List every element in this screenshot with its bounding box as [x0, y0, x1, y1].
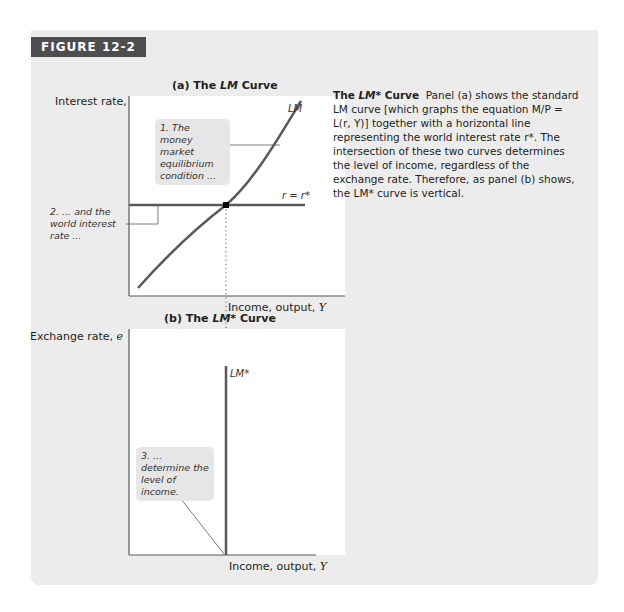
caption-heading: The LM* Curve — [333, 89, 419, 101]
equilibrium-point — [223, 202, 229, 208]
callout-3: 3. ... determine the level of income. — [136, 447, 214, 501]
panel-b-x-axis-label: Income, output, Y — [229, 560, 327, 573]
rstar-line-label: r = r* — [282, 190, 310, 201]
callout-1: 1. The money market equilibrium conditio… — [155, 119, 230, 185]
lm-curve-label: LM — [288, 103, 302, 114]
panel-b-plot-area — [129, 329, 345, 555]
panel-b-y-axis-label: Exchange rate, e — [30, 330, 123, 343]
caption-body: Panel (a) shows the standard LM curve [w… — [333, 89, 578, 199]
callout-2: 2. ... and the world interest rate ... — [50, 206, 122, 242]
figure-caption: The LM* Curve Panel (a) shows the standa… — [333, 88, 583, 200]
panel-b-title: (b) The LM* Curve — [164, 312, 276, 325]
lm-star-curve-label: LM* — [230, 368, 249, 379]
